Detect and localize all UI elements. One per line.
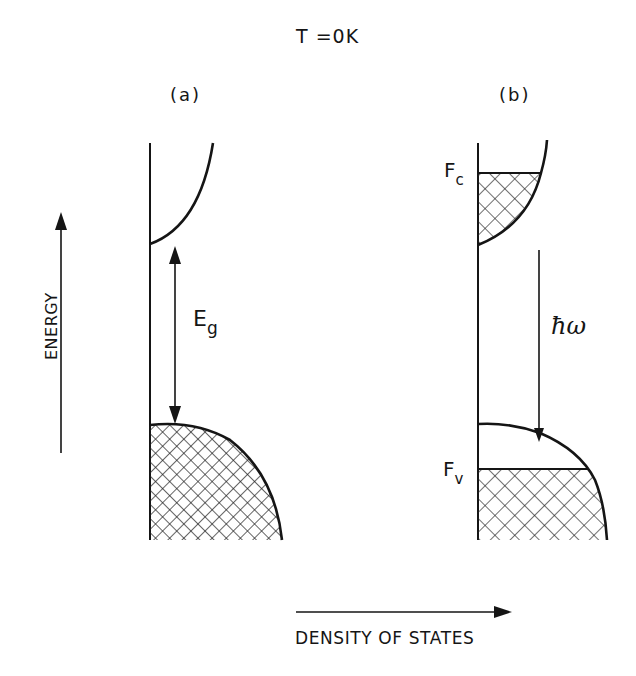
fv-symbol: F [443, 457, 455, 481]
energy-axis-label: ENERGY [42, 292, 61, 360]
photon-energy-label: ħω [551, 312, 586, 340]
panel-b [478, 140, 607, 540]
band-gap-subscript: g [207, 318, 218, 338]
panel-b-valence-fill [478, 469, 606, 540]
fv-label: Fv [443, 457, 463, 485]
figure-title: T =0K [296, 25, 359, 47]
panel-b-label: (b) [499, 84, 530, 105]
panel-a [150, 143, 282, 540]
panel-b-conduction-fill [478, 173, 541, 245]
band-gap-symbol: E [193, 306, 207, 331]
density-axis-arrow [296, 606, 512, 618]
band-gap-label: Eg [193, 306, 218, 335]
band-gap-arrow [169, 246, 181, 424]
photon-emission-arrow [534, 250, 544, 442]
band-diagram [0, 0, 636, 676]
fc-symbol: F [444, 158, 456, 182]
fc-subscript: c [456, 171, 464, 189]
fc-label: Fc [444, 158, 464, 186]
panel-a-conduction-band [150, 143, 213, 244]
panel-a-valence-band-fill [150, 424, 282, 540]
fv-subscript: v [455, 470, 464, 488]
density-of-states-label: DENSITY OF STATES [295, 628, 474, 648]
panel-a-label: (a) [170, 84, 201, 105]
